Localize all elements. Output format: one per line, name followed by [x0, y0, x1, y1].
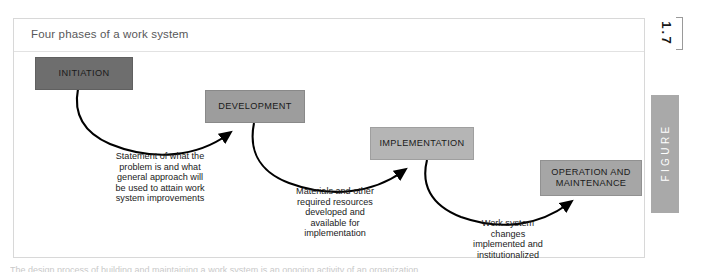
page-body-text-fragment: The design process of building and maint… [10, 264, 700, 272]
figure-side-tab-label: FIGURE [660, 94, 671, 212]
phase-box-implementation-label: IMPLEMENTATION [379, 138, 464, 149]
phase-box-operation-and-maintenance-label: OPERATION AND MAINTENANCE [551, 167, 630, 189]
figure-number-bracket [676, 17, 683, 50]
connector-label-development-to-implementation: Materials and other required resources d… [273, 186, 397, 239]
phase-box-initiation-label: INITIATION [59, 68, 110, 79]
phase-box-development[interactable]: DEVELOPMENT [205, 90, 305, 123]
phase-box-initiation[interactable]: INITIATION [35, 57, 133, 90]
phase-box-operation-and-maintenance[interactable]: OPERATION AND MAINTENANCE [540, 160, 642, 196]
figure-caption: Four phases of a work system [31, 28, 189, 40]
work-system-phases-diagram: INITIATION DEVELOPMENT IMPLEMENTATION OP… [14, 52, 644, 257]
phase-box-development-label: DEVELOPMENT [218, 101, 291, 112]
figure-number-label: 1.7 [659, 12, 674, 56]
figure-side-tab: FIGURE [651, 95, 679, 213]
figure-caption-bar: Four phases of a work system [14, 19, 644, 52]
connector-label-initiation-to-development: Statement of what the problem is and wha… [97, 151, 223, 204]
figure-number: 1.7 [653, 8, 679, 60]
connector-label-implementation-to-operation: Work system changes implemented and inst… [450, 218, 566, 260]
figure-frame: Four phases of a work system INITIATION … [13, 18, 645, 258]
phase-box-implementation[interactable]: IMPLEMENTATION [370, 127, 474, 160]
